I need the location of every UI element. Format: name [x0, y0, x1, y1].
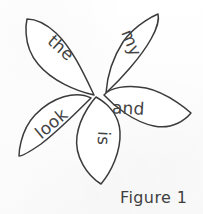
- figure-caption: Figure 1: [120, 188, 187, 207]
- petal-and-label: and: [112, 97, 146, 119]
- petal-the: the: [26, 19, 94, 95]
- word-flower-diagram: the my and look is Figure 1: [0, 0, 203, 214]
- petal-is-label: is: [94, 131, 114, 146]
- petal-my: my: [106, 14, 158, 93]
- figure-canvas: the my and look is Figure 1: [0, 0, 203, 214]
